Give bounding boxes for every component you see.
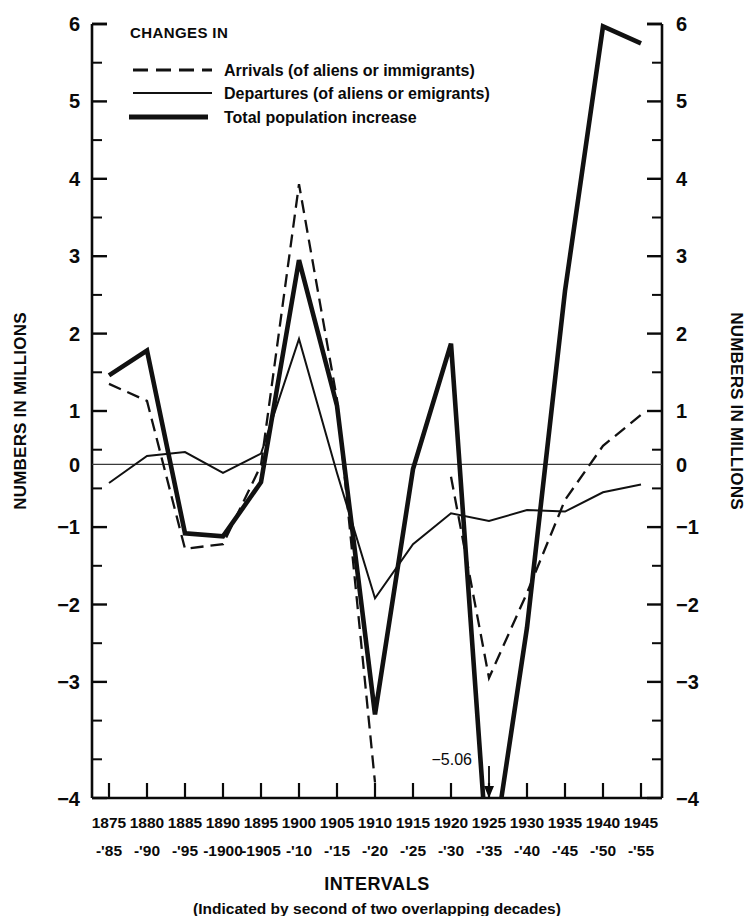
y-axis-tick-labels-left: 6 5 4 3 2 1 0 −1 −2 −3 −4 <box>57 13 81 810</box>
xtick-year: 1920 <box>434 814 468 831</box>
legend-item-total: Total population increase <box>129 109 417 126</box>
xtick-year: 1900 <box>282 814 316 831</box>
data-series-group <box>109 26 641 798</box>
xtick-year-end: -'45 <box>552 842 578 859</box>
xtick-year: 1935 <box>548 814 583 831</box>
xtick-year-end: -'40 <box>514 842 540 859</box>
xtick-year-end: -'55 <box>628 842 654 859</box>
chart-frame <box>92 24 662 798</box>
legend-label: Arrivals (of aliens or immigrants) <box>224 62 475 79</box>
ytick-label: 1 <box>69 400 80 422</box>
y-axis-ticks-right <box>647 24 662 798</box>
population-change-line-chart: 6 5 4 3 2 1 0 −1 −2 −3 −4 6 5 4 3 2 1 0 … <box>0 0 753 916</box>
xtick-year-end: -'85 <box>96 842 122 859</box>
xtick-year: 1925 <box>472 814 507 831</box>
ytick-label: −2 <box>676 594 699 616</box>
xtick-year-end: -'10 <box>286 842 312 859</box>
xtick-year: 1915 <box>396 814 431 831</box>
xtick-year: 1875 <box>92 814 127 831</box>
y-axis-title-left: NUMBERS IN MILLIONS <box>11 312 30 509</box>
y-axis-tick-labels-right: 6 5 4 3 2 1 0 −1 −2 −3 −4 <box>676 13 700 810</box>
legend-label: Departures (of aliens or emigrants) <box>224 85 490 102</box>
x-axis-ticks <box>109 783 641 798</box>
ytick-label: −3 <box>676 671 699 693</box>
xtick-year: 1910 <box>358 814 392 831</box>
xtick-year: 1945 <box>624 814 659 831</box>
legend-item-departures: Departures (of aliens or emigrants) <box>133 85 490 102</box>
xtick-year-end: -'20 <box>362 842 388 859</box>
ytick-label: −1 <box>676 516 699 538</box>
ytick-label: 6 <box>69 13 80 35</box>
ytick-label: 4 <box>69 168 81 190</box>
chart-canvas: 6 5 4 3 2 1 0 −1 −2 −3 −4 6 5 4 3 2 1 0 … <box>0 0 753 916</box>
ytick-label: 4 <box>676 168 688 190</box>
legend-item-arrivals: Arrivals (of aliens or immigrants) <box>133 62 475 79</box>
xtick-year-end: -'90 <box>134 842 160 859</box>
series-line-total-population <box>109 26 641 798</box>
y-axis-ticks-left <box>92 24 107 798</box>
xtick-year: 1890 <box>206 814 240 831</box>
ytick-label: 2 <box>676 323 687 345</box>
ytick-label: 3 <box>69 245 80 267</box>
xtick-year-end: -'15 <box>324 842 350 859</box>
xtick-year-end: -1900 <box>203 842 243 859</box>
x-axis-tick-labels: 1875 1880 1885 1890 1895 1900 1905 1910 … <box>92 814 659 859</box>
ytick-label: 5 <box>676 90 687 112</box>
ytick-label: 0 <box>69 454 80 476</box>
ytick-label: 3 <box>676 245 687 267</box>
xtick-year-end: -1905 <box>241 842 281 859</box>
xtick-year: 1905 <box>320 814 355 831</box>
xtick-year: 1880 <box>130 814 164 831</box>
legend-label: Total population increase <box>224 109 417 126</box>
xtick-year: 1930 <box>510 814 544 831</box>
xtick-year: 1885 <box>168 814 203 831</box>
ytick-label: −1 <box>57 516 80 538</box>
xtick-year-end: -'30 <box>438 842 464 859</box>
xtick-year-end: -'25 <box>400 842 426 859</box>
annotation-arrow-head <box>484 786 494 798</box>
legend-title: CHANGES IN <box>130 24 228 41</box>
xtick-year-end: -'95 <box>172 842 198 859</box>
ytick-label: −4 <box>676 788 700 810</box>
series-line-arrivals <box>109 184 375 782</box>
xtick-year: 1940 <box>586 814 620 831</box>
ytick-label: 5 <box>69 90 80 112</box>
ytick-label: −3 <box>57 671 80 693</box>
series-line-departures <box>109 339 641 598</box>
y-axis-title-right: NUMBERS IN MILLIONS <box>727 312 746 509</box>
x-axis-title: INTERVALS <box>324 874 430 894</box>
x-axis-subtitle: (Indicated by second of two overlapping … <box>193 900 561 916</box>
legend: CHANGES IN Arrivals (of aliens or immigr… <box>129 24 490 126</box>
ytick-label: −4 <box>57 788 81 810</box>
xtick-year: 1895 <box>244 814 279 831</box>
xtick-year-end: -'50 <box>590 842 616 859</box>
ytick-label: 1 <box>676 400 687 422</box>
ytick-label: 6 <box>676 13 687 35</box>
annotation-label: −5.06 <box>432 751 473 768</box>
ytick-label: 2 <box>69 323 80 345</box>
ytick-label: −2 <box>57 594 80 616</box>
ytick-label: 0 <box>676 454 687 476</box>
xtick-year-end: -'35 <box>476 842 502 859</box>
